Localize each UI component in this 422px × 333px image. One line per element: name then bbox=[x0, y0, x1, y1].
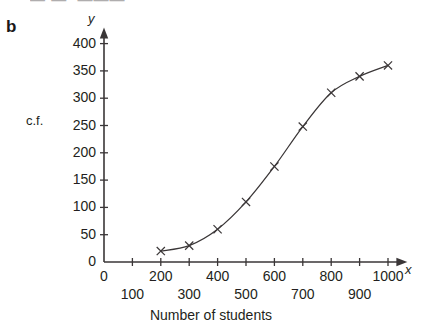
x-tick-label: 900 bbox=[337, 286, 383, 302]
y-tick-label: 50 bbox=[50, 226, 96, 242]
x-tick-label: 200 bbox=[138, 268, 184, 284]
y-tick-label: 150 bbox=[50, 171, 96, 187]
chart-figure: — —, ——— b c.f. y x Number of students 0… bbox=[0, 0, 422, 333]
y-tick-label: 300 bbox=[50, 89, 96, 105]
x-tick-label: 300 bbox=[166, 286, 212, 302]
axes bbox=[100, 27, 408, 266]
y-tick-label: 350 bbox=[50, 62, 96, 78]
x-tick-label: 400 bbox=[195, 268, 241, 284]
x-tick-label: 700 bbox=[280, 286, 326, 302]
x-tick-label: 100 bbox=[109, 286, 155, 302]
tick-marks bbox=[100, 44, 388, 266]
x-tick-label: 600 bbox=[251, 268, 297, 284]
y-tick-label: 0 bbox=[50, 253, 96, 269]
y-tick-label: 400 bbox=[50, 35, 96, 51]
ogive-curve bbox=[161, 65, 388, 251]
y-tick-label: 100 bbox=[50, 198, 96, 214]
x-tick-label: 1000 bbox=[365, 268, 411, 284]
y-tick-label: 200 bbox=[50, 144, 96, 160]
y-tick-label: 250 bbox=[50, 117, 96, 133]
x-tick-label: 500 bbox=[223, 286, 269, 302]
x-tick-label: 0 bbox=[81, 268, 127, 284]
data-point-markers bbox=[157, 61, 392, 255]
x-tick-label: 800 bbox=[308, 268, 354, 284]
